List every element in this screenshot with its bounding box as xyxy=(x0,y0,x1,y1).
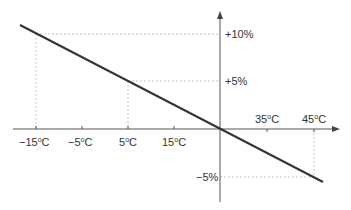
y-tick-label: +10% xyxy=(225,29,253,40)
y-tick-label: +5% xyxy=(225,76,247,87)
chart-canvas xyxy=(0,0,351,210)
x-tick-label: 45oC xyxy=(302,113,326,125)
x-tick-label: −5oC xyxy=(68,136,92,148)
x-tick-label: 15oC xyxy=(162,136,186,148)
y-tick-label: −5% xyxy=(196,172,218,183)
x-tick-label: 35oC xyxy=(255,113,279,125)
x-axis-arrow-icon xyxy=(332,126,340,132)
x-tick-label: 5oC xyxy=(119,136,137,148)
y-axis-arrow-icon xyxy=(217,11,223,19)
x-tick-label: −15oC xyxy=(19,136,50,148)
data-line xyxy=(20,25,323,182)
